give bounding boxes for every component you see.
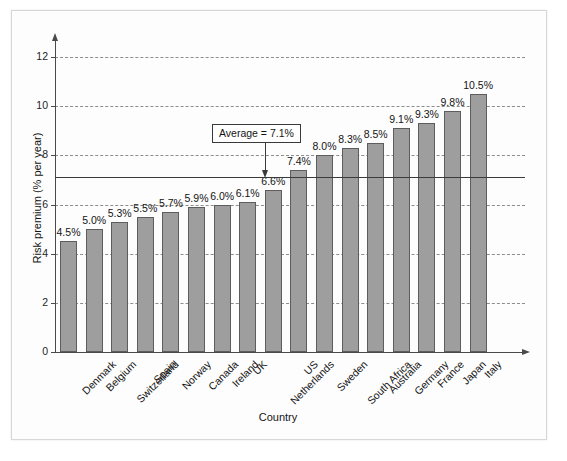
y-tick-label-10: 10 — [26, 99, 48, 111]
category-label: Sweden — [334, 358, 369, 393]
bar-value-label: 4.5% — [52, 226, 86, 238]
bar-value-label: 9.8% — [436, 96, 470, 108]
y-axis-title: Risk premium (% per year) — [31, 118, 43, 278]
average-annotation-box: Average = 7.1% — [212, 124, 301, 143]
bar — [444, 111, 461, 352]
y-axis-arrow-icon — [52, 33, 58, 41]
bar — [418, 123, 435, 352]
y-tick-mark-8 — [51, 155, 55, 156]
x-axis-arrow-icon — [522, 349, 530, 355]
bar-value-label: 6.1% — [231, 187, 265, 199]
bar — [342, 148, 359, 352]
bar — [470, 94, 487, 352]
average-annotation-arrow-icon — [262, 170, 268, 178]
bar — [290, 170, 307, 352]
bar — [316, 155, 333, 352]
x-axis — [55, 352, 523, 353]
bar-value-label: 9.3% — [410, 108, 444, 120]
x-axis-title: Country — [238, 411, 318, 423]
y-tick-mark-10 — [51, 106, 55, 107]
y-tick-mark-0 — [51, 352, 55, 353]
y-tick-mark-6 — [51, 205, 55, 206]
chart-page: 0246810124.5%Denmark5.0%Belgium5.3%Switz… — [0, 0, 567, 461]
bar-value-label: 7.4% — [282, 155, 316, 167]
bar — [367, 143, 384, 352]
gridline-12 — [55, 57, 525, 58]
bar — [111, 222, 128, 352]
y-tick-mark-4 — [51, 254, 55, 255]
bar — [393, 128, 410, 352]
average-line — [55, 177, 525, 178]
y-tick-label-0: 0 — [26, 345, 48, 357]
y-tick-mark-2 — [51, 303, 55, 304]
bar — [265, 190, 282, 352]
bar-value-label: 10.5% — [461, 79, 495, 91]
bar — [137, 217, 154, 352]
category-label: Italy — [482, 358, 504, 380]
bar — [86, 229, 103, 352]
bar — [214, 205, 231, 353]
y-tick-mark-12 — [51, 57, 55, 58]
y-tick-label-2: 2 — [26, 296, 48, 308]
average-annotation-stem — [265, 142, 266, 170]
bar — [60, 241, 77, 352]
y-axis — [55, 40, 56, 352]
y-tick-label-12: 12 — [26, 50, 48, 62]
bar-value-label: 8.5% — [359, 128, 393, 140]
bar-chart: 0246810124.5%Denmark5.0%Belgium5.3%Switz… — [0, 0, 567, 461]
bar — [239, 202, 256, 352]
bar — [162, 212, 179, 352]
bar — [188, 207, 205, 352]
